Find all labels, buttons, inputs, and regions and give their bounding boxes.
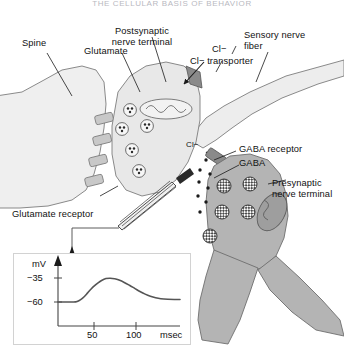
chart-xtick-label-50: 50	[87, 330, 97, 340]
dendritic-spine-shape	[0, 66, 106, 208]
label-presynaptic-line2: nerve terminal	[272, 189, 332, 200]
label-postsynaptic-nerve-terminal: Postsynaptic nerve terminal	[96, 26, 188, 47]
label-glutamate: Glutamate	[84, 46, 128, 57]
label-chloride-ion: Cl−	[212, 44, 227, 55]
chart-xlabel: msec	[160, 330, 182, 340]
chart-trace-line	[58, 278, 180, 302]
chart-xtick-label-100: 100	[126, 330, 142, 340]
label-sensory-nerve-fiber-line2: fiber	[244, 41, 263, 52]
label-glutamate-receptor: Glutamate receptor	[12, 209, 93, 220]
figure-panel: THE CELLULAR BASIS OF BEHAVIOR	[0, 0, 344, 353]
sensory-nerve-fiber-shape	[193, 60, 344, 148]
mitochondrion-postsynaptic	[140, 99, 192, 119]
label-postsynaptic-line1: Postsynaptic	[115, 26, 169, 36]
chart-ytick-label-35: −35	[27, 273, 43, 283]
label-sensory-nerve-fiber-line1: Sensory nerve	[244, 30, 305, 41]
label-postsynaptic-line2: nerve terminal	[112, 37, 172, 47]
chart-ylabel: mV	[32, 259, 46, 269]
chart-ytick-label-60: −60	[27, 297, 43, 307]
label-presynaptic-line1: Presynaptic	[272, 178, 322, 189]
chart-y-axis-arrow	[54, 255, 62, 266]
label-chloride-transporter: Cl− transporter	[190, 56, 253, 67]
epsp-recording-chart: mV −35 −60 50 100 msec	[13, 253, 191, 345]
label-gaba-receptor: GABA receptor	[239, 144, 302, 155]
label-spine: Spine	[22, 38, 46, 49]
label-gaba: GABA	[239, 158, 265, 169]
label-chloride-ion-inner: Cl−	[186, 140, 199, 151]
